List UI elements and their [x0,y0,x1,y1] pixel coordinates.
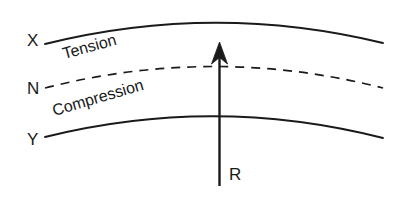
diagram-canvas: X N Y R Tension Compression [0,0,400,201]
bottom-fiber-label: Y [27,131,38,148]
top-fiber-label: X [27,32,38,49]
reaction-force-label: R [229,166,241,183]
neutral-axis-label: N [27,80,39,97]
bottom-fiber-curve [45,116,383,138]
neutral-axis-curve [45,67,383,89]
